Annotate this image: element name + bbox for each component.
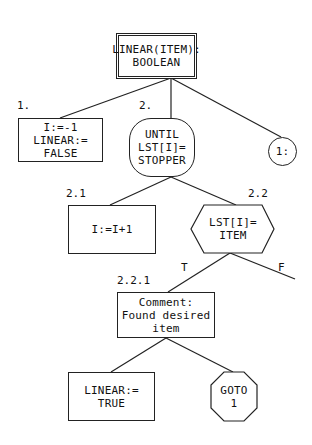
node-1-line-3: FALSE bbox=[43, 147, 77, 160]
branch-true-label: T bbox=[181, 262, 188, 274]
node-2-2-condition: LST[I]= ITEM bbox=[191, 205, 275, 253]
node-2-1: I:=I+1 bbox=[68, 205, 156, 254]
node-goto: GOTO 1 bbox=[211, 372, 257, 421]
node-2-2-1-comment: Comment: Found desired item bbox=[117, 292, 215, 338]
root-line-1: LINEAR(ITEM): bbox=[112, 43, 201, 56]
node-goto-line-2: 1 bbox=[231, 397, 238, 410]
node-2-2-1-line-3: item bbox=[152, 322, 179, 335]
node-2-2-line-1: LST[I]= bbox=[209, 216, 257, 229]
root-node: LINEAR(ITEM): BOOLEAN bbox=[116, 33, 197, 79]
node-2-1-label: 2.1 bbox=[66, 188, 86, 200]
node-2-2-1-label: 2.2.1 bbox=[117, 275, 150, 287]
edge-n22-false bbox=[230, 253, 295, 279]
node-label-circle: 1: bbox=[268, 137, 297, 166]
edge-n22-true bbox=[168, 253, 230, 292]
node-2-loop: UNTIL LST[I]= STOPPER bbox=[129, 118, 195, 177]
root-line-2: BOOLEAN bbox=[133, 56, 181, 69]
node-3-line-1: 1: bbox=[276, 145, 290, 158]
node-1: I:=-1 LINEAR:= FALSE bbox=[18, 118, 103, 162]
node-2-2-1-line-2: Found desired bbox=[122, 309, 211, 322]
edge-n2-n21 bbox=[110, 177, 171, 205]
node-2-line-1: UNTIL bbox=[145, 128, 179, 141]
node-2-1-line-1: I:=I+1 bbox=[92, 223, 133, 236]
node-2-2-label: 2.2 bbox=[248, 188, 268, 200]
node-goto-line-1: GOTO bbox=[220, 384, 247, 397]
node-2-line-3: STOPPER bbox=[138, 154, 186, 167]
node-2-label: 2. bbox=[139, 100, 152, 112]
node-set-true-line-2: TRUE bbox=[98, 397, 125, 410]
edge-n221-n2212 bbox=[166, 338, 233, 372]
node-set-true-line-1: LINEAR:= bbox=[84, 384, 139, 397]
node-2-2-line-2: ITEM bbox=[219, 229, 246, 242]
edge-n221-n2211 bbox=[111, 338, 166, 372]
edge-n2-n22 bbox=[171, 177, 236, 205]
node-1-label: 1. bbox=[17, 100, 30, 112]
node-2-2-1-line-1: Comment: bbox=[139, 296, 194, 309]
node-1-line-2: LINEAR:= bbox=[33, 134, 88, 147]
node-set-true: LINEAR:= TRUE bbox=[68, 372, 155, 421]
branch-false-label: F bbox=[278, 262, 285, 274]
node-1-line-1: I:=-1 bbox=[43, 121, 77, 134]
edge-root-n1 bbox=[60, 78, 171, 118]
node-2-line-2: LST[I]= bbox=[138, 141, 186, 154]
